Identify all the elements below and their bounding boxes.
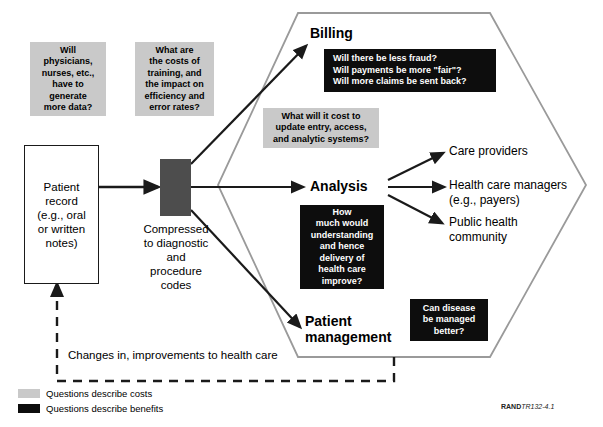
arrow-analysis-to-care-providers	[388, 153, 443, 180]
benefit-question-text: Can disease be managed better?	[423, 303, 476, 338]
cost-question-training-costs: What are the costs of training, and the …	[135, 42, 214, 116]
stage-label-analysis: Analysis	[310, 178, 368, 194]
legend-label-costs: Questions describe costs	[46, 388, 152, 399]
cost-question-text: What are the costs of training, and the …	[144, 45, 204, 114]
arrow-analysis-to-public-health	[388, 195, 442, 223]
compressed-codes-caption: Compressed to diagnostic and procedure c…	[127, 222, 225, 292]
legend-label-benefits: Questions describe benefits	[46, 403, 163, 414]
benefit-question-text: How much would understanding and hence d…	[311, 207, 374, 288]
legend-item-costs: Questions describe costs	[18, 388, 152, 399]
benefit-question-analysis: How much would understanding and hence d…	[300, 205, 384, 289]
outcome-public-health-community: Public health community	[449, 215, 518, 244]
cost-question-generate-more-data: Will physicians, nurses, etc., have to g…	[30, 42, 106, 116]
source-note-brand: RAND	[501, 403, 521, 410]
legend-swatch-costs-icon	[18, 389, 40, 398]
legend-swatch-benefits-icon	[18, 404, 40, 413]
patient-record-text: Patient record (e.g., oral or written no…	[37, 180, 86, 250]
stage-label-billing: Billing	[310, 25, 353, 41]
figure-root: Will physicians, nurses, etc., have to g…	[0, 0, 603, 427]
benefit-question-text: Will there be less fraud? Will payments …	[333, 53, 466, 88]
cost-question-text: What will it cost to update entry, acces…	[273, 111, 369, 146]
source-note-code: TR132-4.1	[521, 403, 554, 410]
outcome-health-care-managers: Health care managers (e.g., payers)	[449, 178, 567, 207]
source-note: RANDTR132-4.1	[501, 403, 554, 410]
stage-label-patient-management: Patient management	[305, 313, 391, 345]
cost-question-system-update-costs: What will it cost to update entry, acces…	[263, 108, 379, 148]
benefit-question-patient-management: Can disease be managed better?	[410, 299, 488, 341]
compressed-codes-rect	[160, 159, 191, 216]
patient-record-box: Patient record (e.g., oral or written no…	[24, 145, 99, 284]
benefit-question-billing: Will there be less fraud? Will payments …	[324, 49, 496, 92]
feedback-loop-label: Changes in, improvements to health care	[68, 349, 278, 361]
cost-question-text: Will physicians, nurses, etc., have to g…	[42, 45, 95, 114]
outcome-care-providers: Care providers	[449, 144, 528, 159]
legend-item-benefits: Questions describe benefits	[18, 403, 163, 414]
